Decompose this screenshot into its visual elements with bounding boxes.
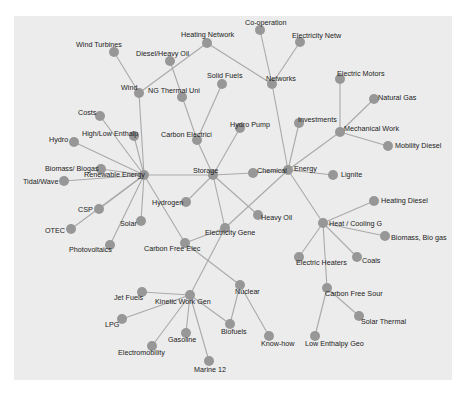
labels-layer: Co-operationElectricity NetwHeating Netw…: [23, 18, 447, 374]
network-graph[interactable]: Co-operationElectricity NetwHeating Netw…: [0, 0, 460, 393]
node-label-tidal-wave: Tidal/Wave: [23, 177, 58, 186]
node-label-chemical: Chemical: [257, 166, 287, 175]
edge-mobility-diesel-mechanical-work: [340, 132, 388, 146]
node-label-wind: Wind: [121, 83, 137, 92]
node-heat-cooling-g[interactable]: [318, 218, 328, 228]
node-label-wind-turbines: Wind Turbines: [76, 40, 122, 49]
node-heating-network[interactable]: [202, 38, 212, 48]
edge-coals-heat-cooling-g: [323, 223, 357, 257]
node-label-solar: Solar: [120, 219, 137, 228]
node-tidal-wave[interactable]: [59, 176, 69, 186]
node-label-kinetic-work-gen: Kinetic Work Gen: [155, 297, 211, 306]
node-label-low-enthalpy-geo: Low Enthalpy Geo: [305, 339, 364, 348]
node-label-hydro: Hydro: [49, 135, 68, 144]
node-label-heat-cooling-g: Heat / Cooling G: [329, 219, 383, 228]
edge-renewable-energy-carbon-free-elec: [144, 175, 185, 243]
node-label-gasoline: Gasoline: [168, 335, 196, 344]
edge-energy-heat-cooling-g: [288, 170, 323, 223]
edge-storage-chemical: [213, 173, 253, 175]
edge-heat-cooling-g-carbon-free-sour: [323, 223, 327, 288]
edge-costs-renewable-energy: [100, 116, 144, 175]
node-label-storage: Storage: [193, 166, 218, 175]
node-label-carbon-electrici: Carbon Electrici: [161, 130, 212, 139]
node-label-hydrogen: Hydrogen: [152, 198, 183, 207]
node-label-energy: Energy: [294, 164, 317, 173]
node-label-marine-12: Marine 12: [194, 365, 226, 374]
node-label-diesel-heavy-oil: Diesel/Heavy Oil: [136, 49, 190, 58]
edge-wind-renewable-energy: [139, 93, 144, 175]
edge-electricity-gene-kinetic-work-gen: [190, 228, 225, 295]
node-label-co-operation: Co-operation: [245, 18, 287, 27]
edge-networks-energy: [272, 84, 288, 170]
node-label-hydro-pump: Hydro Pump: [230, 120, 270, 129]
node-label-electricity-netw: Electricity Netw: [292, 31, 342, 40]
node-label-carbon-free-elec: Carbon Free Elec: [144, 244, 201, 253]
node-label-mobility-diesel: Mobility Diesel: [395, 141, 442, 150]
node-otec[interactable]: [66, 224, 76, 234]
edge-photovoltaics-renewable-energy: [110, 175, 144, 245]
node-lignite[interactable]: [328, 170, 338, 180]
edge-storage-electricity-gene: [213, 175, 225, 228]
node-label-electric-motors: Electric Motors: [337, 69, 385, 78]
node-label-heating-network: Heating Network: [181, 30, 235, 39]
node-label-solar-thermal: Solar Thermal: [361, 317, 406, 326]
node-label-otec: OTEC: [45, 226, 65, 235]
node-label-electromobility: Electromobility: [118, 348, 165, 357]
node-label-heating-diesel: Heating Diesel: [381, 196, 428, 205]
node-label-lpg: LPG: [105, 320, 120, 329]
node-label-nuclear: Nuclear: [235, 287, 260, 296]
node-label-coals: Coals: [362, 256, 381, 265]
node-label-natural-gas: Natural Gas: [378, 93, 417, 102]
edge-jet-fuels-kinetic-work-gen: [142, 292, 190, 295]
node-heating-diesel[interactable]: [369, 196, 379, 206]
edge-storage-heavy-oil: [213, 175, 258, 215]
node-label-networks: Networks: [266, 74, 296, 83]
node-label-biomass-bio-gas: Biomass, Bio gas: [391, 233, 447, 242]
node-label-photovoltaics: Photovoltaics: [69, 245, 112, 254]
node-label-electricity-gene: Electricity Gene: [205, 228, 255, 237]
edge-electric-heaters-heat-cooling-g: [299, 223, 323, 257]
node-label-know-how: Know-how: [261, 339, 295, 348]
node-label-carbon-free-sour: Carbon Free Sour: [325, 289, 383, 298]
node-label-heavy-oil: Heavy Oil: [261, 213, 293, 222]
node-costs[interactable]: [95, 111, 105, 121]
node-label-electric-heaters: Electric Heaters: [296, 258, 347, 267]
node-label-csp: CSP: [78, 205, 93, 214]
node-label-investments: Investments: [298, 115, 337, 124]
node-label-ng-thermal-uni: NG Thermal Uni: [148, 86, 200, 95]
node-label-solid-fuels: Solid Fuels: [207, 71, 243, 80]
node-label-biofuels: Biofuels: [221, 327, 247, 336]
node-label-jet-fuels: Jet Fuels: [114, 293, 144, 302]
node-label-costs: Costs: [78, 108, 97, 117]
node-label-renewable-energy: Renewable Energy: [84, 170, 145, 179]
node-mobility-diesel[interactable]: [383, 141, 393, 151]
node-biomass-bio-gas[interactable]: [380, 231, 390, 241]
node-coals[interactable]: [352, 252, 362, 262]
edge-hydrogen-storage: [186, 175, 213, 202]
node-label-lignite: Lignite: [341, 170, 362, 179]
node-solid-fuels[interactable]: [217, 79, 227, 89]
edge-solar-renewable-energy: [141, 175, 144, 221]
node-label-mechanical-work: Mechanical Work: [344, 124, 399, 133]
node-hydro[interactable]: [69, 137, 79, 147]
node-solar[interactable]: [136, 216, 146, 226]
node-label-high-low-enthalp: High/Low Enthalp: [82, 129, 138, 138]
node-csp[interactable]: [94, 204, 104, 214]
